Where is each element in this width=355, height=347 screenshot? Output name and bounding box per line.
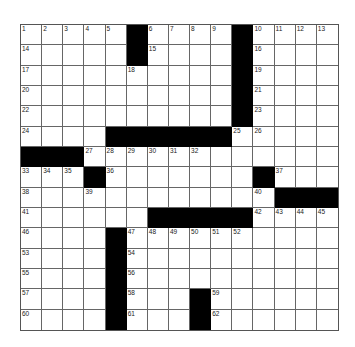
grid-cell[interactable]: 22 <box>21 106 42 126</box>
grid-cell[interactable] <box>190 66 211 86</box>
grid-cell[interactable]: 33 <box>21 167 42 187</box>
grid-cell[interactable] <box>190 188 211 208</box>
grid-cell[interactable] <box>148 188 169 208</box>
grid-cell[interactable] <box>296 127 317 147</box>
grid-cell[interactable] <box>275 228 296 248</box>
grid-cell[interactable]: 28 <box>106 147 127 167</box>
grid-cell[interactable]: 10 <box>253 25 274 45</box>
grid-cell[interactable] <box>84 249 105 269</box>
grid-cell[interactable] <box>253 228 274 248</box>
grid-cell[interactable] <box>211 147 232 167</box>
grid-cell[interactable] <box>148 167 169 187</box>
grid-cell[interactable]: 46 <box>21 228 42 248</box>
grid-cell[interactable] <box>296 310 317 330</box>
grid-cell[interactable] <box>253 249 274 269</box>
grid-cell[interactable]: 55 <box>21 269 42 289</box>
grid-cell[interactable] <box>317 269 338 289</box>
grid-cell[interactable] <box>42 269 63 289</box>
grid-cell[interactable] <box>232 269 253 289</box>
grid-cell[interactable]: 26 <box>253 127 274 147</box>
grid-cell[interactable] <box>190 269 211 289</box>
grid-cell[interactable] <box>317 289 338 309</box>
grid-cell[interactable]: 1 <box>21 25 42 45</box>
grid-cell[interactable]: 57 <box>21 289 42 309</box>
grid-cell[interactable] <box>296 86 317 106</box>
grid-cell[interactable] <box>296 147 317 167</box>
grid-cell[interactable]: 35 <box>63 167 84 187</box>
grid-cell[interactable] <box>211 106 232 126</box>
grid-cell[interactable] <box>127 208 148 228</box>
grid-cell[interactable]: 54 <box>127 249 148 269</box>
grid-cell[interactable] <box>42 310 63 330</box>
grid-cell[interactable] <box>84 106 105 126</box>
grid-cell[interactable] <box>106 188 127 208</box>
grid-cell[interactable]: 51 <box>211 228 232 248</box>
grid-cell[interactable] <box>63 45 84 65</box>
grid-cell[interactable]: 43 <box>275 208 296 228</box>
grid-cell[interactable] <box>253 269 274 289</box>
grid-cell[interactable] <box>106 86 127 106</box>
grid-cell[interactable] <box>42 106 63 126</box>
grid-cell[interactable] <box>317 66 338 86</box>
grid-cell[interactable] <box>275 289 296 309</box>
grid-cell[interactable]: 32 <box>190 147 211 167</box>
grid-cell[interactable] <box>127 86 148 106</box>
grid-cell[interactable] <box>211 167 232 187</box>
grid-cell[interactable] <box>317 147 338 167</box>
grid-cell[interactable]: 52 <box>232 228 253 248</box>
grid-cell[interactable] <box>296 167 317 187</box>
grid-cell[interactable]: 20 <box>21 86 42 106</box>
grid-cell[interactable]: 50 <box>190 228 211 248</box>
grid-cell[interactable] <box>275 66 296 86</box>
grid-cell[interactable] <box>317 167 338 187</box>
grid-cell[interactable] <box>148 106 169 126</box>
grid-cell[interactable] <box>63 269 84 289</box>
grid-cell[interactable] <box>63 66 84 86</box>
grid-cell[interactable] <box>106 45 127 65</box>
grid-cell[interactable] <box>148 269 169 289</box>
grid-cell[interactable] <box>317 228 338 248</box>
grid-cell[interactable]: 18 <box>127 66 148 86</box>
grid-cell[interactable] <box>169 45 190 65</box>
grid-cell[interactable]: 15 <box>148 45 169 65</box>
grid-cell[interactable] <box>169 289 190 309</box>
grid-cell[interactable]: 25 <box>232 127 253 147</box>
grid-cell[interactable] <box>296 66 317 86</box>
grid-cell[interactable]: 42 <box>253 208 274 228</box>
grid-cell[interactable]: 23 <box>253 106 274 126</box>
grid-cell[interactable] <box>232 188 253 208</box>
grid-cell[interactable] <box>190 249 211 269</box>
grid-cell[interactable] <box>106 208 127 228</box>
grid-cell[interactable]: 5 <box>106 25 127 45</box>
grid-cell[interactable] <box>63 289 84 309</box>
grid-cell[interactable] <box>232 310 253 330</box>
grid-cell[interactable] <box>84 45 105 65</box>
grid-cell[interactable]: 48 <box>148 228 169 248</box>
grid-cell[interactable] <box>275 147 296 167</box>
grid-cell[interactable] <box>190 167 211 187</box>
grid-cell[interactable]: 19 <box>253 66 274 86</box>
grid-cell[interactable] <box>211 249 232 269</box>
grid-cell[interactable] <box>63 86 84 106</box>
grid-cell[interactable]: 40 <box>253 188 274 208</box>
grid-cell[interactable]: 34 <box>42 167 63 187</box>
grid-cell[interactable] <box>148 310 169 330</box>
grid-cell[interactable] <box>84 269 105 289</box>
grid-cell[interactable] <box>42 208 63 228</box>
grid-cell[interactable] <box>253 289 274 309</box>
grid-cell[interactable] <box>275 269 296 289</box>
grid-cell[interactable] <box>317 45 338 65</box>
grid-cell[interactable] <box>127 167 148 187</box>
grid-cell[interactable] <box>296 269 317 289</box>
grid-cell[interactable] <box>275 45 296 65</box>
grid-cell[interactable] <box>84 310 105 330</box>
grid-cell[interactable] <box>42 127 63 147</box>
grid-cell[interactable] <box>296 228 317 248</box>
grid-cell[interactable] <box>63 249 84 269</box>
grid-cell[interactable] <box>148 86 169 106</box>
grid-cell[interactable] <box>275 106 296 126</box>
grid-cell[interactable] <box>84 127 105 147</box>
grid-cell[interactable] <box>211 86 232 106</box>
grid-cell[interactable] <box>232 147 253 167</box>
grid-cell[interactable] <box>127 188 148 208</box>
